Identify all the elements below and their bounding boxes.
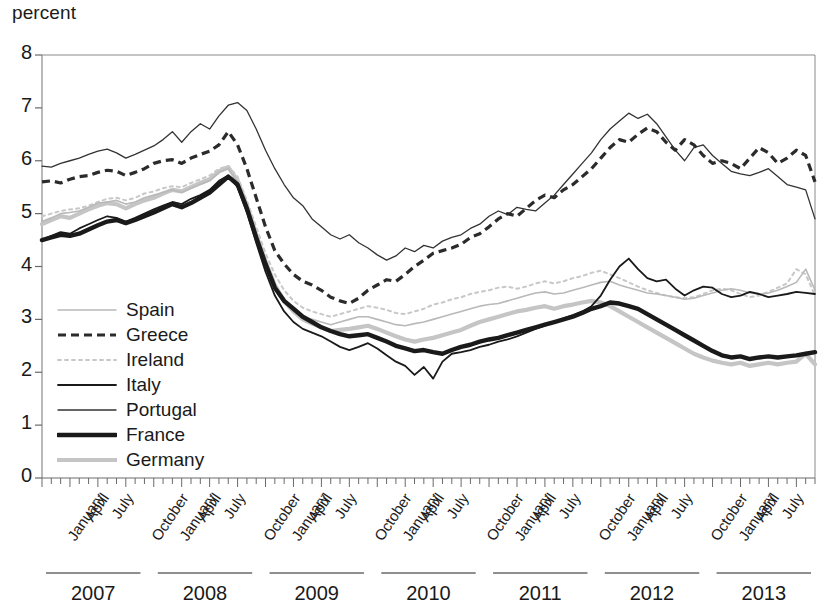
y-axis-tick-label: 8 xyxy=(6,41,32,64)
legend-label: Italy xyxy=(126,375,161,394)
legend-item-portugal: Portugal xyxy=(57,397,262,422)
legend-label: Portugal xyxy=(126,400,197,419)
legend-item-ireland: Ireland xyxy=(57,347,262,372)
legend-item-greece: Greece xyxy=(57,322,262,347)
y-axis-tick-label: 2 xyxy=(6,358,32,381)
y-axis-tick-label: 7 xyxy=(6,94,32,117)
legend-label: Greece xyxy=(126,325,188,344)
y-axis-tick-label: 4 xyxy=(6,253,32,276)
legend-swatch-ireland xyxy=(57,353,117,367)
legend-item-france: France xyxy=(57,422,262,447)
y-axis-tick-label: 5 xyxy=(6,200,32,223)
legend-label: Germany xyxy=(126,450,204,469)
legend-item-italy: Italy xyxy=(57,372,262,397)
year-label: 2013 xyxy=(713,582,815,605)
legend-label: Spain xyxy=(126,300,175,319)
legend-swatch-spain xyxy=(57,303,117,317)
legend-swatch-greece xyxy=(57,328,117,342)
legend-label: Ireland xyxy=(126,350,184,369)
y-axis-tick-label: 3 xyxy=(6,305,32,328)
chart-root: percent 012345678 JanuaryAprilJulyOctobe… xyxy=(0,0,824,616)
y-axis-tick-label: 1 xyxy=(6,411,32,434)
legend-item-germany: Germany xyxy=(57,447,262,472)
year-label: 2009 xyxy=(266,582,368,605)
y-axis-tick-label: 6 xyxy=(6,147,32,170)
series-line-greece xyxy=(42,128,815,304)
series-line-ireland xyxy=(42,166,815,317)
legend-label: France xyxy=(126,425,185,444)
year-label: 2007 xyxy=(42,582,144,605)
legend-swatch-germany xyxy=(57,453,117,467)
legend-swatch-portugal xyxy=(57,403,117,417)
legend-swatch-france xyxy=(57,428,117,442)
y-axis-tick-label: 0 xyxy=(6,464,32,487)
year-label: 2012 xyxy=(601,582,703,605)
chart-legend: SpainGreeceIrelandItalyPortugalFranceGer… xyxy=(57,297,262,472)
year-label: 2011 xyxy=(489,582,591,605)
year-label: 2010 xyxy=(377,582,479,605)
legend-item-spain: Spain xyxy=(57,297,262,322)
legend-swatch-italy xyxy=(57,378,117,392)
year-label: 2008 xyxy=(154,582,256,605)
series-line-portugal xyxy=(42,103,815,261)
